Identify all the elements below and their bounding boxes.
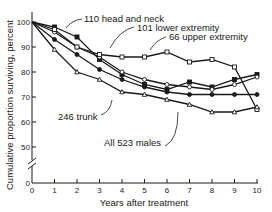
data-point-marker [233,78,237,82]
survival-chart: 100 90 80 70 60 50 0 0 1 2 3 4 5 6 7 8 9… [0,0,272,212]
data-point-marker [53,28,57,32]
data-point-marker [143,55,147,59]
x-tick-4: 4 [120,186,125,195]
data-point-marker [188,93,192,97]
data-point-marker [188,60,192,64]
y-tick-labels: 100 90 80 70 60 50 0 [17,18,31,188]
data-point-marker [165,90,169,94]
x-tick-7: 7 [187,186,192,195]
data-point-marker [142,92,147,96]
data-point-marker [75,45,79,49]
x-tick-0: 0 [30,186,35,195]
data-point-marker [210,110,215,114]
label-trunk: 246 trunk [58,111,98,122]
data-point-marker [75,35,79,39]
x-tick-8: 8 [210,186,215,195]
leader-trunk [101,100,112,115]
data-point-marker [255,75,259,79]
y-tick-60: 60 [21,118,30,127]
data-point-marker [165,83,169,87]
data-point-marker [98,53,102,57]
x-tick-5: 5 [142,186,147,195]
x-tick-2: 2 [75,186,80,195]
x-axis [32,179,258,183]
x-tick-3: 3 [97,186,102,195]
leader-lower-extremity [110,27,134,48]
data-point-marker [53,38,57,42]
data-point-marker [120,78,124,82]
data-point-marker [188,80,192,84]
data-point-marker [120,90,125,94]
x-tick-9: 9 [232,186,237,195]
data-point-marker [120,70,124,74]
y-tick-100: 100 [17,18,31,27]
data-point-marker [233,65,237,69]
data-point-marker [97,77,102,81]
data-point-marker [210,58,214,62]
data-point-marker [188,85,192,89]
y-tick-70: 70 [21,93,30,102]
data-point-marker [143,78,147,82]
data-point-marker [165,97,170,101]
data-point-marker [255,93,259,97]
x-tick-10: 10 [253,186,262,195]
x-tick-1: 1 [52,186,57,195]
x-tick-labels: 0 1 2 3 4 5 6 7 8 9 10 [30,186,262,195]
x-axis-label: Years after treatment [100,197,189,208]
x-tick-6: 6 [165,186,170,195]
data-point-marker [210,88,214,92]
y-tick-50: 50 [21,143,30,152]
y-tick-90: 90 [21,43,30,52]
data-point-marker [98,68,102,72]
leader-all-males [165,112,178,146]
data-point-marker [233,93,237,97]
annotations [66,19,178,146]
data-point-marker [232,110,237,114]
data-point-marker [75,53,79,57]
data-point-marker [120,55,124,59]
y-tick-80: 80 [21,68,30,77]
leader-head-neck [66,19,82,28]
label-upper-extremity: 66 upper extremity [169,31,248,42]
label-all-males: All 523 males [104,137,161,148]
y-axis-label: Cumulative proportion surviving, percent [4,20,15,190]
leader-upper-extremity [150,37,166,50]
data-point-marker [210,93,214,97]
data-point-marker [233,83,237,87]
data-point-marker [143,85,147,89]
data-point-marker [187,102,192,106]
data-point-marker [165,50,169,54]
